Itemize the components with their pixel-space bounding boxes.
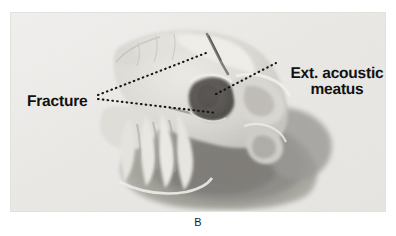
annotation-label-ext-acoustic-meatus: Ext. acousticmeatus bbox=[278, 66, 386, 99]
annotation-label-meatus-line2: meatus bbox=[278, 82, 386, 98]
annotation-label-fracture: Fracture bbox=[27, 94, 87, 110]
figure-caption-letter: B bbox=[0, 216, 396, 228]
specimen-photo-graphic bbox=[10, 12, 386, 212]
specimen-photograph: Fracture Ext. acousticmeatus bbox=[10, 12, 386, 212]
annotation-label-meatus-line1: Ext. acoustic bbox=[290, 65, 383, 82]
figure-panel-b: Fracture Ext. acousticmeatus B bbox=[0, 0, 396, 236]
